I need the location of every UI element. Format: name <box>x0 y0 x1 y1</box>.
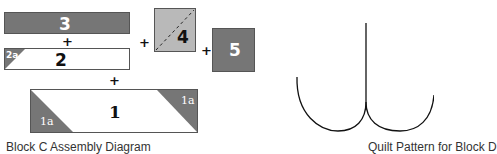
plus-rows-4: + <box>139 36 150 49</box>
piece-3: 3 <box>4 12 130 34</box>
quilt-pattern-curve <box>290 20 434 136</box>
plus-4-5: + <box>201 44 212 57</box>
piece-5: 5 <box>212 28 255 72</box>
piece-1-label: 1 <box>109 102 121 122</box>
piece-2a-label: 2a <box>6 50 18 60</box>
plus-3-2: + <box>62 35 73 48</box>
plus-2-1: + <box>109 74 120 87</box>
piece-1a-right-label: 1a <box>181 94 195 107</box>
piece-4: 4 <box>154 8 196 52</box>
piece-1a-left-label: 1a <box>40 115 54 128</box>
assembly-diagram-caption: Block C Assembly Diagram <box>6 141 151 153</box>
piece-4-label: 4 <box>177 27 189 47</box>
piece-2: 2a 2 <box>4 48 130 70</box>
diagonal-seam-line <box>155 9 195 51</box>
piece-2-label: 2 <box>55 50 67 70</box>
piece-1: 1a 1 1a <box>30 89 198 133</box>
piece-5-label: 5 <box>229 40 241 60</box>
piece-3-label: 3 <box>59 14 71 34</box>
quilt-pattern-caption: Quilt Pattern for Block D <box>368 141 497 153</box>
